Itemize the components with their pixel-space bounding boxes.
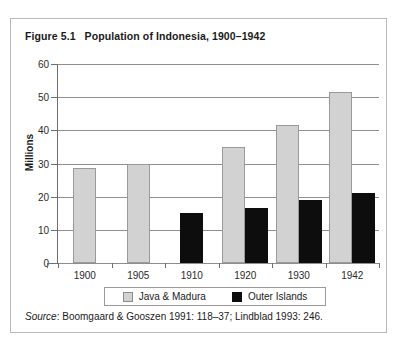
legend-entry: Outer Islands [232,291,307,302]
figure-panel: Figure 5.1Population of Indonesia, 1900–… [10,18,387,333]
source-note: Source: Boomgaard & Gooszen 1991: 118–37… [25,311,323,322]
x-tick-label: 1920 [234,270,256,281]
y-tick-mark [51,97,57,98]
y-tick-label: 0 [27,258,49,269]
x-tick-label: 1900 [74,270,96,281]
x-tick-mark [379,263,380,268]
bar-outer-islands-1930 [299,200,322,263]
bar-group [58,64,112,263]
x-tick-label: 1930 [288,270,310,281]
x-tick-mark [112,263,113,268]
legend-label: Java & Madura [139,291,206,302]
bar-group [326,64,380,263]
source-label: Source [25,311,57,322]
bar-outer-islands-1942 [352,193,375,263]
bar-outer-islands-1920 [245,208,268,263]
y-tick-label: 60 [27,59,49,70]
y-tick-mark [51,130,57,131]
bar-java-madura-1900 [73,168,96,263]
bar-java-madura-1905 [127,164,150,264]
x-tick-mark [326,263,327,268]
legend-label: Outer Islands [248,291,307,302]
legend-entry: Java & Madura [123,291,206,302]
bar-group [165,64,219,263]
bar-java-madura-1920 [222,147,245,263]
y-tick-mark [51,164,57,165]
y-tick-mark [51,230,57,231]
x-tick-label: 1905 [127,270,149,281]
x-tick-mark [58,263,59,268]
bar-group [272,64,326,263]
y-tick-label: 50 [27,92,49,103]
y-tick-mark [51,263,57,264]
bar-outer-islands-1910 [180,213,203,263]
chart-legend: Java & MaduraOuter Islands [104,287,326,306]
x-tick-label: 1910 [181,270,203,281]
bar-group [112,64,166,263]
legend-swatch [123,292,133,302]
bar-group [219,64,273,263]
plot-area [58,64,379,263]
y-tick-label: 20 [27,191,49,202]
x-tick-label: 1942 [341,270,363,281]
bar-java-madura-1930 [276,125,299,263]
y-tick-mark [51,64,57,65]
y-tick-mark [51,197,57,198]
legend-swatch [232,292,242,302]
x-tick-mark [272,263,273,268]
x-tick-mark [47,263,48,268]
source-text: Boomgaard & Gooszen 1991: 118–37; Lindbl… [62,311,323,322]
y-tick-label: 10 [27,224,49,235]
x-tick-mark [219,263,220,268]
y-axis-title: Millions [24,123,35,183]
bar-java-madura-1942 [329,92,352,263]
x-tick-mark [165,263,166,268]
